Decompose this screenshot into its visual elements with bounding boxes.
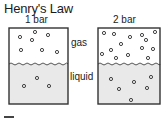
- gas-molecules-right: [100, 30, 156, 59]
- beaker-left: [9, 28, 68, 104]
- henrys-law-diagram: [0, 0, 166, 118]
- beaker-right: [98, 28, 160, 104]
- clipped-caption-fragment: [4, 110, 48, 118]
- liquid-fill-left: [9, 64, 68, 104]
- gas-molecules-left: [18, 30, 58, 53]
- liquid-fill-right: [98, 64, 160, 104]
